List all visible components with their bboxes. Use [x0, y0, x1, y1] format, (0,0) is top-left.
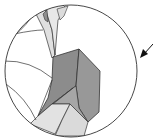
detail-view-illustration — [0, 0, 153, 139]
contour-line-3 — [4, 61, 52, 78]
magnified-content — [4, 4, 100, 136]
diagram-canvas — [0, 0, 153, 139]
pointer-arrow-icon — [140, 44, 153, 58]
